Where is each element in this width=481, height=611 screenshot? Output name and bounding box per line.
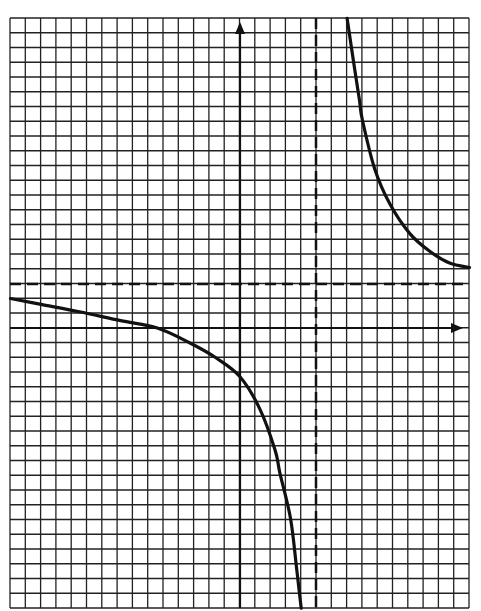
x-axis [10, 323, 463, 333]
x-axis-arrow-icon [451, 323, 463, 333]
curve-left-branch [11, 299, 302, 609]
graph-paper-chart [0, 0, 481, 611]
y-axis-arrow-icon [235, 22, 245, 34]
